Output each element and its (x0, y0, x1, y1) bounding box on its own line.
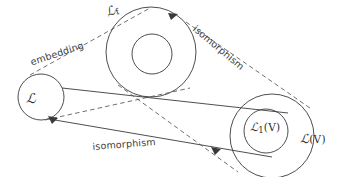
node-label-l1v: ℒ1(V) (250, 120, 281, 135)
node-label-l1v-script: ℒ (250, 120, 258, 134)
edge-isomorphism-top-lower-line (118, 85, 238, 172)
edge-isomorphism-bottom-upper-line (62, 88, 288, 113)
edge-embedding-lower-line (45, 88, 190, 120)
node-label-l-script: ℒ (26, 90, 36, 106)
node-label-lv-script: ℒ (300, 131, 309, 146)
node-label-l: ℒ (26, 90, 36, 106)
diagram-graphics (0, 0, 348, 177)
node-label-lv: ℒ(V) (300, 131, 326, 146)
arrowhead-embedding-top (168, 13, 178, 20)
node-l-circle (18, 74, 64, 120)
node-lf-outer-circle (106, 7, 196, 97)
edge-embedding-upper-line (30, 8, 150, 75)
edge-isomorphism-bottom-lower-line (49, 119, 272, 157)
node-label-l1v-paren: (V) (264, 121, 281, 133)
node-label-lv-paren: (V) (309, 133, 326, 145)
diagram-canvas: embedding isomorphism isomorphism ℒf ℒ ℒ… (0, 0, 348, 177)
node-lf-inner-circle (132, 34, 172, 74)
